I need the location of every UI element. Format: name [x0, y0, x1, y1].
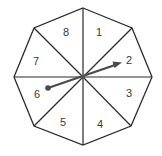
sector-label-7: 7 [33, 55, 39, 67]
arrow-tail-dot-icon [45, 85, 51, 91]
sector-label-8: 8 [63, 26, 69, 38]
sector-label-5: 5 [60, 116, 66, 128]
sector-label-1: 1 [96, 26, 102, 38]
sector-label-2: 2 [126, 54, 132, 66]
sector-label-6: 6 [34, 88, 40, 100]
sector-label-3: 3 [126, 87, 132, 99]
spinner-diagram: 1 2 3 4 5 6 7 8 [0, 0, 162, 156]
sector-label-4: 4 [97, 118, 103, 130]
pivot-icon [81, 75, 85, 79]
